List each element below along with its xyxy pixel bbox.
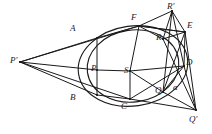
vertex-f (138, 25, 140, 27)
diagram-canvas: P′AFR′ERDPSBCQαQ′ (0, 0, 212, 134)
label-interior-point-q: Q (155, 86, 162, 95)
vertex-a (96, 37, 98, 39)
vertex-q-prime (195, 109, 197, 111)
label-interior-point-p: P (91, 64, 97, 73)
label-interior-point-r: R (156, 33, 162, 42)
segment-F-E (139, 26, 185, 32)
segment-R_prime-F (139, 11, 172, 26)
vertex-r (162, 38, 164, 40)
vertex-s (129, 70, 131, 72)
vertex-b (96, 94, 98, 96)
label-angle-alpha: α (173, 83, 178, 92)
vertex-p-prime (19, 61, 21, 63)
vertex-q (162, 91, 164, 93)
segment-F-S (130, 26, 139, 71)
label-hexagon-vertex-upper-right: E (187, 21, 193, 30)
line-segments (20, 11, 196, 110)
segment-E-D (184, 32, 185, 66)
label-external-left-pole: P′ (10, 56, 17, 65)
label-hexagon-vertex-bottom: C (121, 102, 127, 111)
label-external-bottom-right-pole: Q′ (189, 115, 197, 124)
label-hexagon-vertex-lower-left: B (70, 93, 76, 102)
label-hexagon-vertex-top: F (131, 13, 137, 22)
segment-P_prime-B (20, 62, 97, 95)
vertex-d (183, 65, 185, 67)
label-external-top-pole: R′ (167, 2, 174, 11)
segment-R-E (163, 32, 185, 39)
label-center-point: S (124, 66, 129, 75)
geometry-figure (0, 0, 212, 134)
label-hexagon-vertex-right: D (186, 58, 193, 67)
label-hexagon-vertex-upper-left: A (70, 24, 76, 33)
vertex-e (184, 31, 186, 33)
vertex-c (129, 98, 131, 100)
